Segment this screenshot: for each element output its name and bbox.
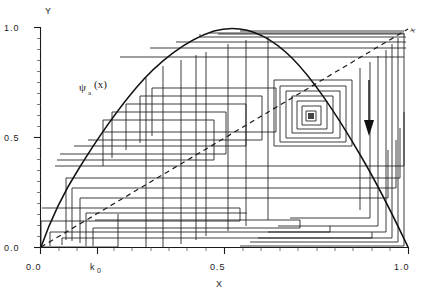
psi-argument: (x) <box>94 78 107 91</box>
y-tick-label-0: 0.0 <box>4 243 20 253</box>
cobweb-figure: x ψ a (x) 1.0 0.5 0.0 0.0 k 0 0.5 1.0 Y … <box>0 0 428 290</box>
psi-subscript: a <box>88 89 92 97</box>
x-tick-label-1: 1.0 <box>394 262 410 272</box>
y-tick-label-0p5: 0.5 <box>4 133 20 143</box>
corner-x-label: x <box>407 27 417 34</box>
x-tick-label-0p5: 0.5 <box>210 262 226 272</box>
x-tick-label-k0-subscript: 0 <box>97 267 102 274</box>
down-arrow-icon <box>364 80 374 136</box>
identity-diagonal <box>41 29 408 247</box>
psi-symbol: ψ <box>79 81 86 93</box>
y-tick-label-1: 1.0 <box>4 23 20 33</box>
x-tick-label-0: 0.0 <box>26 262 42 272</box>
x-tick-labels: 0.0 k 0 0.5 1.0 <box>26 262 410 274</box>
function-label: ψ a (x) <box>79 78 107 97</box>
x-tick-label-k0: k <box>90 262 96 272</box>
x-axis-title: X <box>216 279 222 289</box>
plot-canvas: x ψ a (x) 1.0 0.5 0.0 0.0 k 0 0.5 1.0 Y … <box>0 0 428 290</box>
y-axis-title: Y <box>45 6 51 16</box>
y-tick-labels: 1.0 0.5 0.0 <box>4 23 20 253</box>
